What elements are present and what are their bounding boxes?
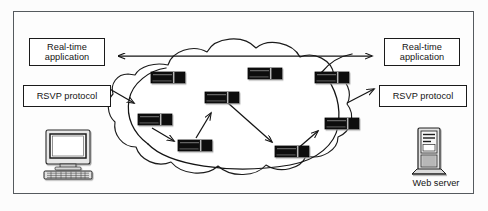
realtime-application-box-left[interactable]: Real-time application <box>29 38 105 66</box>
figure-canvas: Real-time application RSVP protocol Real… <box>0 0 488 211</box>
rsvp-protocol-label-right: RSVP protocol <box>393 91 454 102</box>
web-server-caption: Web server <box>398 178 474 189</box>
realtime-application-box-right[interactable]: Real-time application <box>384 38 460 66</box>
realtime-application-label-right: Real-time application <box>400 42 444 63</box>
realtime-application-label-left: Real-time application <box>45 42 89 63</box>
rsvp-protocol-box-right[interactable]: RSVP protocol <box>379 85 467 107</box>
realtime-application-right-line1: Real-time <box>402 42 442 52</box>
realtime-application-right-line2: application <box>400 52 444 62</box>
rsvp-protocol-label-left: RSVP protocol <box>37 91 98 102</box>
realtime-application-left-line1: Real-time <box>47 42 87 52</box>
rsvp-protocol-box-left[interactable]: RSVP protocol <box>23 85 111 107</box>
realtime-application-left-line2: application <box>45 52 89 62</box>
